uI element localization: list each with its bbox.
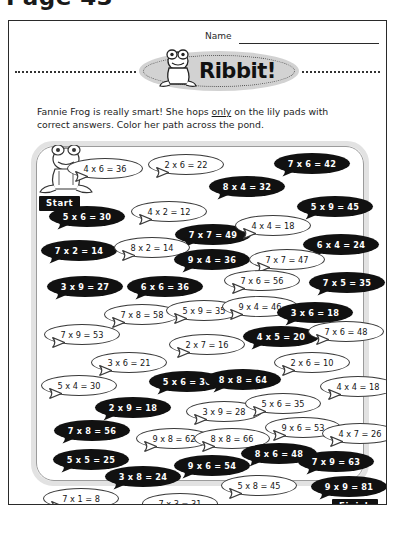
lily-pad[interactable]: 9 x 9 = 81 xyxy=(311,476,387,501)
page-heading: Page 43 xyxy=(6,0,113,10)
lily-pad[interactable]: 8 x 8 = 64 xyxy=(205,369,281,394)
name-field-row: Name xyxy=(205,31,380,47)
lily-pad[interactable]: 8 x 4 = 32 xyxy=(209,176,285,201)
lily-pad[interactable]: 7 x 8 = 56 xyxy=(54,420,130,445)
instructions-emphasis: only xyxy=(212,106,232,117)
lily-pad[interactable]: 4 x 4 = 18 xyxy=(235,215,311,240)
lily-pad-notch-icon xyxy=(194,414,207,425)
lily-pad[interactable]: 2 x 9 = 18 xyxy=(95,397,171,422)
lily-pad-notch-icon xyxy=(57,219,70,230)
lily-pad-notch-icon xyxy=(319,489,332,500)
lily-pad-notch-icon xyxy=(157,384,170,395)
lily-pad-notch-icon xyxy=(251,339,264,350)
lily-pad-notch-icon xyxy=(62,433,75,444)
lily-pad[interactable]: 6 x 6 = 36 xyxy=(127,276,203,301)
lily-pad-notch-icon xyxy=(249,456,262,467)
lily-pad-notch-icon xyxy=(217,189,230,200)
lily-pad-notch-icon xyxy=(75,171,88,182)
lily-pad-notch-icon xyxy=(316,334,329,345)
instructions-text: Fannie Frog is really smart! She hops on… xyxy=(37,105,357,131)
lily-pad[interactable]: 7 x 1 = 8 xyxy=(43,488,119,505)
lily-pad-label: 7 x 3 = 31 xyxy=(142,493,218,505)
lily-pad-notch-icon xyxy=(52,337,65,348)
lily-pad-notch-icon xyxy=(328,389,341,400)
lily-pad-notch-icon xyxy=(122,250,135,261)
lily-pad[interactable]: 7 x 6 = 48 xyxy=(308,321,384,346)
name-label: Name xyxy=(205,31,232,41)
lily-pad[interactable]: 5 x 6 = 30 xyxy=(49,206,125,231)
lily-pad[interactable]: 7 x 6 = 56 xyxy=(224,270,300,295)
lily-pad-notch-icon xyxy=(253,406,266,417)
lily-pad[interactable]: 7 x 6 = 42 xyxy=(274,153,350,178)
lily-pad-notch-icon xyxy=(229,488,242,499)
name-write-line[interactable] xyxy=(239,43,379,44)
lily-pad[interactable]: 7 x 2 = 14 xyxy=(41,240,117,265)
lily-pad-notch-icon xyxy=(282,365,295,376)
lily-pad-notch-icon xyxy=(139,214,152,225)
lily-pad-notch-icon xyxy=(51,501,64,505)
lily-pad[interactable]: 7 x 5 = 35 xyxy=(309,272,385,297)
lily-pad[interactable]: 7 x 3 = 31 xyxy=(142,493,218,505)
lily-pad[interactable]: 5 x 6 = 35 xyxy=(245,393,321,418)
lily-pad-notch-icon xyxy=(243,228,256,239)
lily-pad[interactable]: 4 x 6 = 36 xyxy=(67,158,143,183)
lily-pad-notch-icon xyxy=(135,289,148,300)
lily-pad-notch-icon xyxy=(49,388,62,399)
lily-pad-notch-icon xyxy=(182,468,195,479)
lily-pad-notch-icon xyxy=(230,309,243,320)
lily-pad-notch-icon xyxy=(330,436,343,447)
lily-pad-notch-icon xyxy=(182,262,195,273)
lily-pad-notch-icon xyxy=(177,347,190,358)
lily-pad[interactable]: 7 x 9 = 53 xyxy=(44,324,120,349)
lily-pad-notch-icon xyxy=(213,382,226,393)
lily-pad-notch-icon xyxy=(202,441,215,452)
lily-pad-notch-icon xyxy=(49,253,62,264)
lily-pad[interactable]: 4 x 7 = 26 xyxy=(322,423,387,448)
lily-pad-notch-icon xyxy=(285,315,298,326)
lily-pad-notch-icon xyxy=(273,430,286,441)
lily-pad[interactable]: 7 x 9 = 63 xyxy=(298,451,374,476)
lily-pad-notch-icon xyxy=(156,167,169,178)
lily-pad[interactable]: 2 x 7 = 16 xyxy=(169,334,245,359)
instructions-line2: correct answers. Color her path across t… xyxy=(37,119,264,130)
lily-pad[interactable]: 4 x 4 = 18 xyxy=(320,376,387,401)
banner-title: Ribbit! xyxy=(199,59,276,83)
lily-pad-notch-icon xyxy=(55,289,68,300)
frog-icon xyxy=(157,48,201,90)
lily-pad-notch-icon xyxy=(61,462,74,473)
lily-pad[interactable]: 3 x 9 = 27 xyxy=(47,276,123,301)
lily-pad-notch-icon xyxy=(306,464,319,475)
lily-pad[interactable]: 2 x 6 = 10 xyxy=(274,352,350,377)
lily-pad-notch-icon xyxy=(174,313,187,324)
lily-pad-notch-icon xyxy=(144,441,157,452)
worksheet-frame: Name Ribbit! Fannie Frog is really smart… xyxy=(8,20,387,505)
lily-pad[interactable]: 4 x 2 = 12 xyxy=(131,201,207,226)
lily-pad-notch-icon xyxy=(317,285,330,296)
instructions-line1-a: Fannie Frog is really smart! She hops xyxy=(37,106,212,117)
lily-pad[interactable]: 5 x 8 = 45 xyxy=(221,475,297,500)
instructions-line1-b: on the lily pads with xyxy=(231,106,328,117)
lily-pad-notch-icon xyxy=(232,283,245,294)
